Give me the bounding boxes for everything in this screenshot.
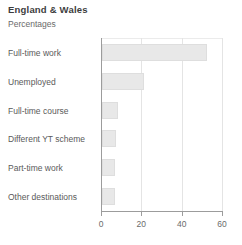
bar	[102, 188, 115, 205]
category-label: Part-time work	[8, 163, 63, 173]
bar	[102, 159, 115, 176]
plot-area	[101, 38, 222, 211]
x-tick-mark	[222, 212, 223, 216]
category-label: Full-time course	[8, 106, 68, 116]
bar	[102, 102, 118, 119]
bar	[102, 44, 207, 61]
gridline-top	[101, 38, 222, 39]
x-tick-label: 0	[89, 219, 113, 229]
x-tick-label: 60	[210, 219, 234, 229]
x-tick-mark	[182, 212, 183, 216]
chart-title: England & Wales	[8, 4, 88, 15]
x-tick-label: 20	[129, 219, 153, 229]
bar	[102, 73, 144, 90]
gridline	[222, 38, 223, 211]
gridline	[141, 38, 142, 211]
bar	[102, 130, 116, 147]
category-label: Other destinations	[8, 192, 77, 202]
x-tick-label: 40	[170, 219, 194, 229]
x-tick-mark	[141, 212, 142, 216]
x-tick-mark	[101, 212, 102, 216]
category-label: Different YT scheme	[8, 134, 85, 144]
gridline	[182, 38, 183, 211]
chart-subtitle: Percentages	[8, 19, 56, 29]
y-axis-line	[101, 38, 102, 212]
category-label: Full-time work	[8, 48, 61, 58]
category-label: Unemployed	[8, 77, 56, 87]
x-axis-line	[101, 211, 223, 212]
bar-chart: England & Wales Percentages 0204060 Full…	[0, 0, 242, 245]
